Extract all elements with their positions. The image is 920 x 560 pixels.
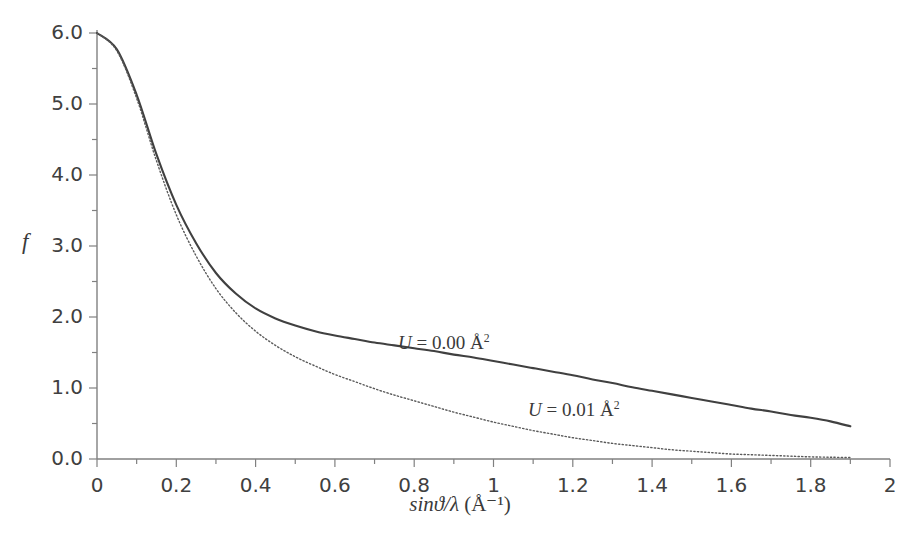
annotation-variable: U [398, 332, 412, 353]
curve-annotation-1: U = 0.00 Å2 [398, 332, 490, 354]
x-tick-label: 0.2 [146, 473, 206, 497]
annotation-variable: U [528, 399, 542, 420]
series-line-1 [97, 33, 850, 426]
series-line-2 [97, 33, 850, 458]
x-tick-label: 1.4 [622, 473, 682, 497]
annotation-exponent: 2 [614, 399, 620, 412]
x-tick-label: 0 [67, 473, 127, 497]
x-tick-label: 0.6 [305, 473, 365, 497]
annotation-value: = 0.00 Å [412, 332, 484, 353]
axis-lines [97, 30, 890, 459]
y-tick-label: 1.0 [23, 375, 83, 399]
y-tick-label: 5.0 [23, 91, 83, 115]
x-axis-ticks [97, 459, 890, 467]
y-tick-label: 0.0 [23, 446, 83, 470]
chart-canvas: f sinϑ/λ (Å⁻¹) 0.01.02.03.04.05.06.000.2… [0, 0, 920, 560]
y-tick-label: 4.0 [23, 162, 83, 186]
y-tick-label: 6.0 [23, 20, 83, 44]
x-tick-label: 1.8 [781, 473, 841, 497]
y-axis-ticks [89, 33, 97, 459]
x-tick-label: 1.2 [543, 473, 603, 497]
y-tick-label: 3.0 [23, 233, 83, 257]
x-tick-label: 0.4 [226, 473, 286, 497]
x-tick-label: 1.6 [701, 473, 761, 497]
annotation-exponent: 2 [484, 332, 490, 345]
annotation-value: = 0.01 Å [542, 399, 614, 420]
x-tick-label: 2 [860, 473, 920, 497]
x-tick-label: 1 [464, 473, 524, 497]
y-tick-label: 2.0 [23, 304, 83, 328]
curve-annotation-2: U = 0.01 Å2 [528, 399, 620, 421]
x-tick-label: 0.8 [384, 473, 444, 497]
